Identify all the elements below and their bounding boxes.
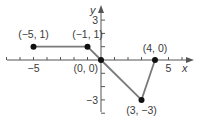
piecewise-graph: xy −553−3 (−5, 1)(−1, 1)(0, 0)(3, −3)(4,… [0,0,209,126]
data-point [152,57,158,63]
point-label: (3, −3) [126,104,157,116]
point-label: (0, 0) [73,62,98,74]
y-tick-label: 3 [92,14,98,26]
data-point [31,44,37,50]
data-point [85,44,91,50]
x-tick-label: −5 [28,62,40,74]
point-label: (4, 0) [143,42,168,54]
point-label: (−5, 1) [18,28,49,40]
y-tick-label: −3 [86,94,98,106]
x-axis-label: x [181,62,188,74]
point-label: (−1, 1) [72,28,103,40]
data-point [139,97,145,103]
data-point [98,57,104,63]
x-tick-label: 5 [166,62,172,74]
y-axis-arrow-icon [98,5,104,13]
